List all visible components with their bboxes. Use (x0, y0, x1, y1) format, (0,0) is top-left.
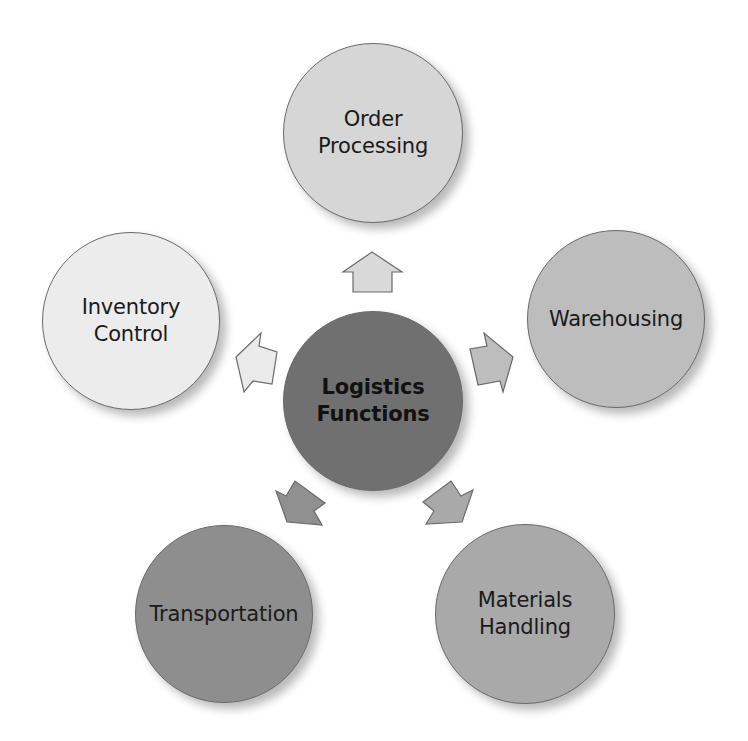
arrow-to-materials-handling-icon (423, 481, 473, 524)
node-label-line1: Materials (478, 587, 572, 614)
node-label: Transportation (150, 601, 299, 628)
node-materials-handling: Materials Handling (435, 524, 615, 704)
node-label-line2: Control (94, 321, 169, 348)
node-label-line2: Processing (318, 133, 428, 160)
arrow-to-inventory-control-icon (236, 333, 277, 392)
arrow-to-order-processing-icon (343, 252, 402, 292)
node-label-line2: Handling (479, 614, 571, 641)
node-label-line1: Order (344, 106, 403, 133)
logistics-diagram: Order Processing Warehousing Materials H… (0, 0, 748, 741)
center-label-line2: Functions (317, 401, 430, 428)
node-transportation: Transportation (135, 525, 313, 703)
arrow-to-transportation-icon (276, 481, 325, 525)
node-inventory-control: Inventory Control (42, 232, 220, 410)
node-warehousing: Warehousing (527, 230, 705, 408)
arrow-to-warehousing-icon (470, 333, 513, 392)
node-order-processing: Order Processing (283, 43, 463, 223)
node-label: Warehousing (549, 306, 683, 333)
node-logistics-functions: Logistics Functions (283, 311, 463, 491)
node-label-line1: Inventory (82, 294, 181, 321)
center-label-line1: Logistics (322, 374, 425, 401)
